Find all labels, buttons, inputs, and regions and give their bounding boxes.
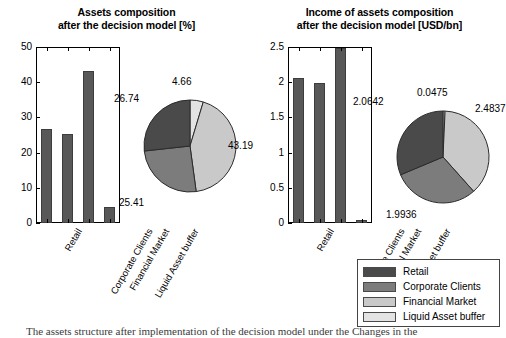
y-tick-mark — [288, 188, 292, 189]
pie-slice-label: 26.74 — [114, 93, 139, 104]
assets-composition-panel: Assets composition after the decision mo… — [0, 0, 253, 338]
left-chart-title: Assets composition after the decision mo… — [0, 6, 253, 32]
legend-item: Liquid Asset buffer — [363, 309, 499, 324]
y-tick-label: 0.5 — [270, 183, 284, 193]
right-bar-chart: 00.511.522.5RetailCorporate ClientsFinan… — [288, 47, 372, 223]
x-axis-label: Retail — [315, 227, 336, 253]
y-tick-label: 30 — [21, 112, 32, 122]
pie-svg — [396, 110, 490, 204]
bar — [62, 134, 73, 223]
x-tick-mark — [89, 47, 90, 51]
y-tick-mark — [288, 47, 292, 48]
x-tick-mark — [341, 219, 342, 223]
legend-swatch — [363, 312, 396, 322]
y-tick-mark — [288, 223, 292, 224]
pie-slice-label: 1.9936 — [386, 209, 417, 220]
y-tick-label: 50 — [21, 42, 32, 52]
legend: RetailCorporate ClientsFinancial MarketL… — [357, 259, 500, 327]
y-tick-label: 20 — [21, 148, 32, 158]
x-tick-mark — [320, 47, 321, 51]
pie-slice — [144, 146, 196, 192]
y-tick-mark — [288, 153, 292, 154]
x-tick-mark — [110, 47, 111, 51]
y-tick-label: 0 — [278, 218, 284, 228]
x-tick-mark — [68, 47, 69, 51]
left-bar-chart: 01020304050RetailCorporate ClientsFinanc… — [36, 47, 120, 223]
legend-label: Liquid Asset buffer — [403, 311, 485, 322]
y-tick-mark — [36, 82, 40, 83]
y-tick-label: 0 — [26, 218, 32, 228]
x-axis-label: Retail — [63, 227, 84, 253]
x-tick-mark — [362, 219, 363, 223]
pie-slice-label: 4.66 — [172, 76, 191, 87]
y-tick-mark — [36, 223, 40, 224]
x-tick-mark — [68, 219, 69, 223]
right-chart-title-line2: after the decision model [USD/bn] — [253, 19, 506, 32]
left-chart-title-line2: after the decision model [%] — [0, 19, 253, 32]
x-tick-mark — [320, 219, 321, 223]
legend-label: Corporate Clients — [403, 281, 481, 292]
y-tick-label: 40 — [21, 77, 32, 87]
y-tick-label: 1 — [278, 148, 284, 158]
right-chart-title: Income of assets composition after the d… — [253, 6, 506, 32]
y-tick-mark — [36, 47, 40, 48]
legend-swatch — [363, 267, 396, 277]
y-tick-mark — [36, 153, 40, 154]
y-tick-label: 1.5 — [270, 112, 284, 122]
bar — [314, 83, 325, 223]
bar — [335, 48, 346, 223]
x-tick-mark — [299, 219, 300, 223]
legend-label: Retail — [403, 266, 429, 277]
y-tick-mark — [288, 117, 292, 118]
legend-item: Retail — [363, 264, 499, 279]
x-tick-mark — [362, 47, 363, 51]
legend-swatch — [363, 297, 396, 307]
pie-slice-label: 0.0475 — [417, 87, 448, 98]
bar — [293, 78, 304, 223]
bar — [41, 129, 52, 223]
legend-item: Corporate Clients — [363, 279, 499, 294]
pie-slice-label: 2.4837 — [475, 103, 506, 114]
right-chart-title-line1: Income of assets composition — [306, 6, 454, 18]
y-tick-mark — [288, 82, 292, 83]
bar — [83, 71, 94, 223]
legend-label: Financial Market — [403, 296, 476, 307]
y-tick-label: 2.5 — [270, 42, 284, 52]
legend-swatch — [363, 282, 396, 292]
pie-slice-label: 43.19 — [228, 140, 253, 151]
x-tick-mark — [47, 219, 48, 223]
y-tick-mark — [36, 188, 40, 189]
x-tick-mark — [89, 219, 90, 223]
legend-item: Financial Market — [363, 294, 499, 309]
pie-slice-label: 25.41 — [119, 197, 144, 208]
x-tick-mark — [110, 219, 111, 223]
y-tick-label: 10 — [21, 183, 32, 193]
pie-slice — [144, 100, 190, 151]
left-chart-title-line1: Assets composition — [78, 6, 176, 18]
x-tick-mark — [299, 47, 300, 51]
x-tick-mark — [47, 47, 48, 51]
y-tick-mark — [36, 117, 40, 118]
pie-svg — [143, 99, 237, 193]
y-tick-label: 2 — [278, 77, 284, 87]
pie-slice-label: 2.0642 — [353, 96, 384, 107]
x-tick-mark — [341, 47, 342, 51]
figure-caption: The assets structure after implementatio… — [26, 325, 486, 338]
